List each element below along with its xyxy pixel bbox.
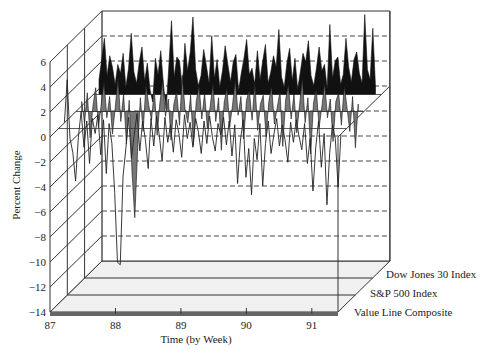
y-axis-label: Percent Change	[10, 150, 22, 219]
y-tick-label: −14	[29, 306, 47, 318]
floor-plane	[50, 261, 390, 312]
x-tick-label: 89	[175, 319, 187, 331]
base-strip	[50, 312, 338, 316]
chart-3d-ribbon: 6420−2−4−6−8−10−12−14 8788899091 Percent…	[0, 0, 481, 355]
y-tick-label: −10	[29, 256, 47, 268]
y-tick-label: 2	[41, 106, 47, 118]
x-tick-label: 87	[45, 319, 57, 331]
y-tick-label: 6	[41, 56, 47, 68]
y-tick-label: −8	[34, 231, 46, 243]
y-tick-label: −6	[34, 206, 46, 218]
x-tick-label: 91	[306, 319, 317, 331]
y-tick-label: −4	[34, 181, 46, 193]
legend-item-valueline: Value Line Composite	[354, 306, 452, 318]
x-tick-label: 88	[110, 319, 122, 331]
legend-item-sp500: S&P 500 Index	[370, 287, 438, 299]
y-tick-label: −2	[34, 156, 46, 168]
y-tick-label: 4	[41, 81, 47, 93]
y-axis-ticks: 6420−2−4−6−8−10−12−14	[29, 56, 47, 318]
y-tick-label: −12	[29, 281, 46, 293]
legend-item-dow: Dow Jones 30 Index	[386, 268, 477, 280]
x-tick-label: 90	[241, 319, 253, 331]
y-tick-label: 0	[41, 131, 47, 143]
x-axis-label: Time (by Week)	[160, 333, 232, 346]
